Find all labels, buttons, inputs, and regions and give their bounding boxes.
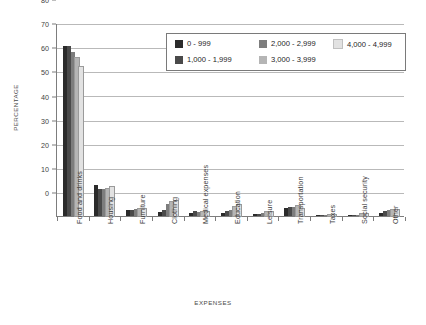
legend-item[interactable]: 1,000 - 1,999 <box>175 55 232 64</box>
legend-item[interactable]: 2,000 - 2,999 <box>259 39 316 48</box>
legend-item[interactable]: 0 - 999 <box>175 39 211 48</box>
x-tick-label: Medical expenses <box>201 165 210 224</box>
y-tick-label: 40 <box>41 92 49 101</box>
x-tick-mark <box>342 217 343 221</box>
x-tick-label: Housing <box>106 197 115 224</box>
x-tick-mark <box>184 217 185 221</box>
y-tick-label: 20 <box>41 140 49 149</box>
y-tick-label: 10 <box>41 164 49 173</box>
x-tick-label: Education <box>233 191 242 224</box>
x-tick-label: Taxes <box>328 205 337 224</box>
bar-group <box>126 24 146 216</box>
legend-label: 3,000 - 3,999 <box>271 55 316 64</box>
chart-legend: 0 - 9991,000 - 1,9992,000 - 2,9993,000 -… <box>166 33 406 71</box>
y-tick-label: 30 <box>41 116 49 125</box>
x-tick-mark <box>405 217 406 221</box>
legend-swatch-icon <box>175 40 183 48</box>
y-tick-label: 70 <box>41 20 49 29</box>
x-tick-mark <box>152 217 153 221</box>
legend-swatch-icon <box>259 40 267 48</box>
x-tick-mark <box>120 217 121 221</box>
bar-group <box>94 24 114 216</box>
x-tick-label: Clothing <box>170 197 179 224</box>
legend-swatch-icon <box>333 39 343 49</box>
legend-label: 0 - 999 <box>187 39 211 48</box>
legend-swatch-icon <box>259 56 267 64</box>
x-tick-mark <box>57 217 58 221</box>
x-tick-mark <box>373 217 374 221</box>
legend-item[interactable]: 3,000 - 3,999 <box>259 55 316 64</box>
bar-chart: PERCENTAGE 01020304050607080 Food and dr… <box>0 0 426 325</box>
x-tick-label: Leisure <box>265 200 274 224</box>
x-tick-label: Food and drinks <box>75 171 84 224</box>
x-axis-labels: Food and drinksHousingFurnitureClothingM… <box>56 224 404 302</box>
legend-label: 4,000 - 4,999 <box>347 40 392 49</box>
legend-label: 2,000 - 2,999 <box>271 39 316 48</box>
y-tick-label: 60 <box>41 44 49 53</box>
y-tick-mark <box>52 0 56 1</box>
x-axis-title: EXPENSES <box>0 299 426 306</box>
y-tick-label: 80 <box>41 0 49 5</box>
x-tick-label: Social security <box>360 176 369 224</box>
legend-swatch-icon <box>175 56 183 64</box>
legend-item[interactable]: 4,000 - 4,999 <box>333 39 392 49</box>
x-tick-mark <box>310 217 311 221</box>
x-tick-mark <box>278 217 279 221</box>
x-tick-mark <box>247 217 248 221</box>
y-axis-ticks: 01020304050607080 <box>0 0 56 193</box>
x-tick-label: Other <box>391 206 400 224</box>
x-tick-mark <box>215 217 216 221</box>
y-tick-label: 50 <box>41 68 49 77</box>
x-tick-label: Furniture <box>138 194 147 224</box>
y-tick-label: 0 <box>45 189 49 198</box>
legend-label: 1,000 - 1,999 <box>187 55 232 64</box>
x-tick-label: Transportation <box>296 177 305 224</box>
x-tick-mark <box>89 217 90 221</box>
